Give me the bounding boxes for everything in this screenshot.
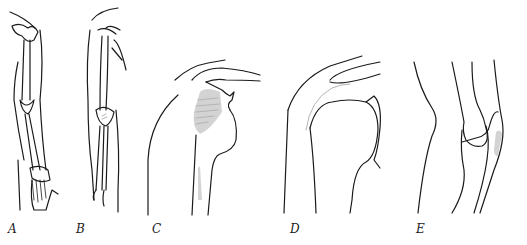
panel-label-a: A: [8, 222, 17, 236]
panel-label-c: C: [152, 222, 161, 236]
panel-c: C: [130, 0, 270, 245]
elbow-profile-drawing: [390, 0, 527, 220]
panel-label-d: D: [290, 222, 300, 236]
panel-e: E: [390, 0, 527, 245]
shoulder-hatched-drawing: [270, 0, 400, 220]
panel-label-b: B: [76, 222, 85, 236]
anatomical-figure: A B C: [0, 0, 527, 245]
panel-d: D: [270, 0, 400, 245]
panel-label-e: E: [416, 222, 425, 236]
arm-skeleton-anterior-drawing: [0, 0, 70, 220]
panel-a: A: [0, 0, 70, 245]
shoulder-shaded-drawing: [130, 0, 270, 220]
